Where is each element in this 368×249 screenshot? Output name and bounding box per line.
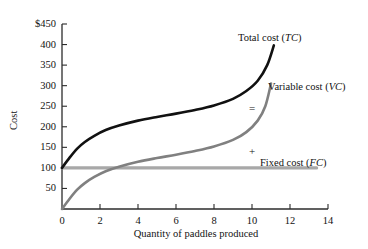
y-tick-label: 400 [0,39,56,50]
series-curve-vc [62,84,271,209]
series-label-variable-cost: Variable cost (VC) [268,82,346,93]
series-label-variable-cost-text: Variable cost ( [268,81,329,92]
x-axis-ticks [100,204,328,209]
x-tick-label: 12 [285,216,296,227]
x-tick-label: 4 [135,216,140,227]
series-label-fixed-cost-abbrev: FC [310,157,323,168]
y-tick-label: 50 [0,183,56,194]
series-label-fixed-cost-text: Fixed cost ( [260,157,310,168]
y-tick-label: 350 [0,60,56,71]
series-label-total-cost: Total cost (TC) [238,33,301,44]
series-label-total-cost-abbrev: TC [285,32,298,43]
cost-curves-chart: 50100150200250300350400$450 02468101214 … [0,0,368,249]
series-label-total-cost-text: Total cost ( [238,32,285,43]
x-tick-label: 10 [247,216,258,227]
axis-lines [62,24,328,209]
series-paths [62,45,317,209]
plus-symbol: + [249,146,255,157]
series-label-fixed-cost-paren: ) [323,157,327,168]
x-tick-label: 0 [59,216,64,227]
y-tick-label: 150 [0,142,56,153]
series-label-variable-cost-paren: ) [342,81,346,92]
series-label-total-cost-paren: ) [298,32,302,43]
y-tick-label: 100 [0,163,56,174]
series-curve-tc [62,45,274,168]
x-tick-label: 8 [211,216,216,227]
x-tick-label: 2 [97,216,102,227]
x-tick-label: 14 [323,216,334,227]
y-tick-label: $450 [0,19,56,30]
series-label-fixed-cost: Fixed cost (FC) [260,158,327,169]
equals-symbol: = [249,103,255,114]
x-tick-label: 6 [173,216,178,227]
series-label-variable-cost-abbrev: VC [329,81,342,92]
y-tick-label: 300 [0,80,56,91]
y-axis-title: Cost [9,111,20,130]
x-axis-title: Quantity of paddles produced [134,229,259,240]
